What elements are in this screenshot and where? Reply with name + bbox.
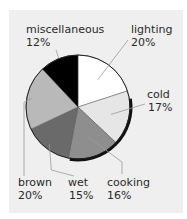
label-lighting-name: lighting bbox=[131, 23, 172, 36]
label-brown-pct: 20% bbox=[18, 189, 42, 202]
leader-line-miscellaneous bbox=[56, 50, 59, 59]
label-cold-pct: 17% bbox=[148, 101, 172, 114]
label-cold-name: cold bbox=[147, 88, 170, 101]
label-cooking-pct: 16% bbox=[107, 189, 131, 202]
label-wet-pct: 15% bbox=[69, 189, 93, 202]
label-wet-name: wet bbox=[68, 176, 89, 189]
label-cooking-name: cooking bbox=[107, 176, 150, 189]
label-brown-name: brown bbox=[18, 176, 52, 189]
label-miscellaneous-pct: 12% bbox=[26, 36, 50, 49]
slices-group bbox=[26, 55, 130, 159]
label-lighting-pct: 20% bbox=[131, 36, 155, 49]
pie-chart: miscellaneous 12% lighting 20% cold 17% … bbox=[0, 0, 187, 219]
label-miscellaneous-name: miscellaneous bbox=[26, 23, 105, 36]
